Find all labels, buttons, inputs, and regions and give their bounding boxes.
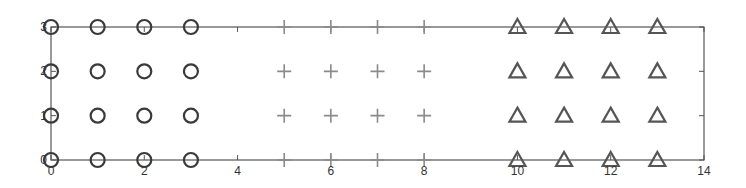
plus-marker (417, 64, 431, 78)
triangle-marker (556, 63, 572, 77)
plus-marker (277, 64, 291, 78)
triangle-marker (556, 108, 572, 122)
triangle-marker (603, 63, 619, 77)
x-tick-label: 6 (328, 164, 335, 178)
triangle-marker (603, 108, 619, 122)
circle-marker (184, 109, 198, 123)
x-tick-label: 0 (48, 164, 55, 178)
x-tick-label: 14 (697, 164, 711, 178)
triangle-marker (649, 152, 665, 166)
plus-marker (324, 64, 338, 78)
plus-marker (324, 109, 338, 123)
circle-marker (184, 64, 198, 78)
x-tick-label: 10 (511, 164, 525, 178)
plus-marker (417, 109, 431, 123)
x-tick-label: 2 (141, 164, 148, 178)
triangle-marker (649, 63, 665, 77)
plus-marker (277, 109, 291, 123)
y-tick-label: 1 (40, 109, 47, 123)
plus-marker (371, 64, 385, 78)
triangle-marker (556, 152, 572, 166)
triangle-marker (649, 19, 665, 33)
triangle-marker (649, 108, 665, 122)
triangle-marker (509, 108, 525, 122)
y-tick-label: 0 (40, 153, 47, 167)
circle-marker (137, 64, 151, 78)
scatter-chart: 024681012140123 (0, 0, 746, 188)
plus-marker (277, 20, 291, 34)
data-markers (44, 19, 665, 167)
y-tick-label: 2 (40, 64, 47, 78)
circle-marker (91, 109, 105, 123)
circle-marker (91, 64, 105, 78)
plus-marker (417, 20, 431, 34)
plus-marker (324, 20, 338, 34)
x-tick-label: 4 (234, 164, 241, 178)
plus-marker (371, 109, 385, 123)
plus-marker (371, 20, 385, 34)
triangle-marker (509, 63, 525, 77)
axis-ticks (51, 27, 704, 160)
plot-frame (51, 27, 704, 160)
axes-box (51, 27, 704, 160)
triangle-marker (556, 19, 572, 33)
y-tick-label: 3 (40, 20, 47, 34)
plus-marker (277, 153, 291, 167)
x-tick-label: 8 (421, 164, 428, 178)
x-tick-label: 12 (604, 164, 618, 178)
plus-marker (371, 153, 385, 167)
circle-marker (137, 109, 151, 123)
